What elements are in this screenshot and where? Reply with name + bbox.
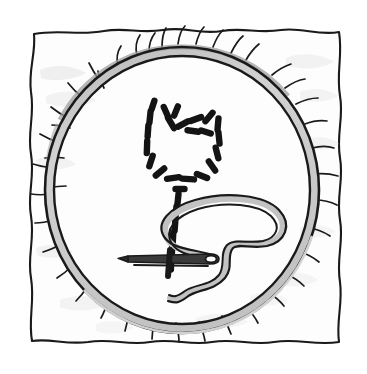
stitch-bloom-0 [152,101,155,110]
needle-piercing-stitch [168,250,170,276]
stitch-bloom-18 [174,106,178,115]
stitch-bloom-6 [167,177,179,179]
stitch-bloom-14 [191,117,201,121]
stitch-bloom-19 [188,130,199,132]
stitch-bloom-1 [149,112,150,123]
stitch-bloom-11 [218,133,219,144]
stitch-bloom-20 [201,130,211,133]
needle-eye [206,256,217,263]
stitch-bloom-12 [218,119,219,130]
stitch-bloom-8 [197,174,207,178]
stitch-bloom-10 [216,148,219,159]
stitch-bloom-2 [148,126,149,137]
stitch-bloom-7 [182,179,194,180]
embroidery-hoop-drawing [0,0,367,374]
stitch-stem-0 [177,194,178,204]
illustration-canvas [0,0,367,374]
stitch-bloom-15 [178,121,188,126]
stitch-bloom-4 [149,156,152,166]
stitch-bloom-17 [164,107,168,117]
